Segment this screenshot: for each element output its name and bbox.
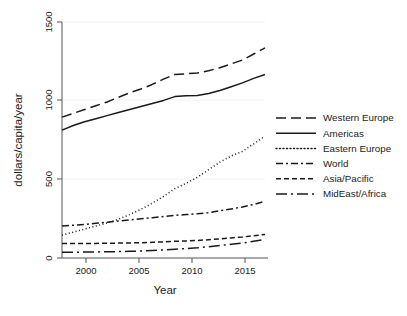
x-tick-label-2010: 2010	[181, 265, 202, 276]
legend-label-eastern-europe: Eastern Europe	[323, 143, 392, 154]
legend-label-world: World	[323, 158, 348, 169]
chart-figure: 0 500 1000 1500 2000 2005 2010 2015 Year…	[0, 0, 407, 316]
x-axis-title: Year	[153, 284, 176, 296]
y-axis-title: dollars/capita/year	[12, 93, 24, 186]
legend-label-asia-pacific: Asia/Pacific	[323, 173, 374, 184]
line-chart: 0 500 1000 1500 2000 2005 2010 2015 Year…	[0, 0, 407, 316]
y-tick-label-1500: 1500	[43, 11, 54, 32]
y-tick-label-0: 0	[43, 255, 54, 260]
x-tick-label-2005: 2005	[128, 265, 149, 276]
y-tick-label-500: 500	[43, 171, 54, 187]
legend-label-western-europe: Western Europe	[323, 112, 394, 123]
y-tick-label-1000: 1000	[43, 89, 54, 110]
x-tick-label-2000: 2000	[75, 265, 96, 276]
legend-label-mideast-africa: MidEast/Africa	[323, 188, 387, 199]
legend-label-americas: Americas	[323, 128, 364, 139]
x-tick-label-2015: 2015	[234, 265, 255, 276]
